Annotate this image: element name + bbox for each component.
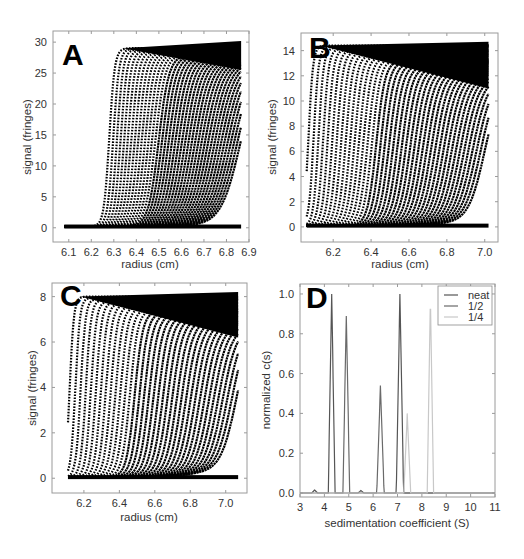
y-tick-label: 6 bbox=[40, 336, 46, 348]
x-tick-label: 6.4 bbox=[129, 246, 144, 258]
legend-label-quarter: 1/4 bbox=[468, 311, 483, 323]
x-tick-label: 6.2 bbox=[84, 246, 99, 258]
x-tick-label: 11 bbox=[489, 501, 500, 513]
panel-d-y-axis-title: normalized c(s) bbox=[260, 351, 272, 430]
baseline-band bbox=[64, 225, 241, 229]
scan-curve bbox=[68, 311, 238, 477]
x-tick-label: 6.6 bbox=[174, 246, 189, 258]
y-tick-label: 0.2 bbox=[279, 447, 294, 459]
figure-canvas: 6.16.26.36.46.56.66.76.86.9051015202530 … bbox=[0, 0, 524, 559]
x-tick-label: 6.8 bbox=[183, 497, 198, 509]
panel-a: 6.16.26.36.46.56.66.76.86.9051015202530 … bbox=[21, 31, 257, 270]
panel-b: 6.26.46.66.87.002468101214 B radius (cm)… bbox=[266, 31, 498, 270]
y-tick-label: 12 bbox=[283, 70, 295, 82]
x-tick-label: 6.5 bbox=[151, 246, 166, 258]
y-tick-label: 10 bbox=[35, 160, 47, 172]
y-tick-label: 0.4 bbox=[279, 407, 294, 419]
y-tick-label: 10 bbox=[283, 95, 295, 107]
y-tick-label: 4 bbox=[40, 381, 46, 393]
x-tick-label: 6.4 bbox=[363, 246, 378, 258]
baseline-band bbox=[307, 224, 489, 228]
y-tick-label: 5 bbox=[41, 191, 47, 203]
y-tick-label: 8 bbox=[40, 291, 46, 303]
x-tick-label: 6.7 bbox=[196, 246, 211, 258]
panel-d: 345678910110.00.20.40.60.81.0 D sediment… bbox=[260, 281, 501, 529]
y-tick-label: 1.0 bbox=[279, 288, 294, 300]
panel-c-label: C bbox=[60, 279, 82, 312]
y-tick-label: 25 bbox=[35, 67, 47, 79]
y-tick-label: 2 bbox=[289, 196, 295, 208]
y-tick-label: 6 bbox=[289, 145, 295, 157]
x-tick-label: 4 bbox=[321, 501, 327, 513]
x-tick-label: 6.1 bbox=[61, 246, 76, 258]
panel-a-scan-curves bbox=[64, 41, 241, 229]
y-tick-label: 0.0 bbox=[279, 487, 294, 499]
panel-a-x-axis-title: radius (cm) bbox=[121, 258, 179, 270]
panel-b-x-axis-title: radius (cm) bbox=[371, 258, 429, 270]
x-tick-label: 6.9 bbox=[241, 246, 256, 258]
y-tick-label: 15 bbox=[35, 129, 47, 141]
x-tick-label: 6.2 bbox=[326, 246, 341, 258]
x-tick-label: 7 bbox=[394, 501, 400, 513]
y-tick-label: 0.6 bbox=[279, 368, 294, 380]
x-tick-label: 9 bbox=[443, 501, 449, 513]
y-tick-label: 0 bbox=[41, 222, 47, 234]
y-tick-label: 8 bbox=[289, 120, 295, 132]
panel-c-y-axis-title: signal (fringes) bbox=[26, 350, 38, 426]
y-tick-label: 0.8 bbox=[279, 328, 294, 340]
y-tick-label: 20 bbox=[35, 98, 47, 110]
x-tick-label: 7.0 bbox=[218, 497, 233, 509]
panel-c-scan-curves bbox=[68, 292, 238, 479]
panel-c-x-axis-title: radius (cm) bbox=[120, 511, 178, 523]
panel-d-label: D bbox=[306, 281, 328, 314]
x-tick-label: 3 bbox=[297, 501, 303, 513]
y-tick-label: 30 bbox=[35, 36, 47, 48]
x-tick-label: 6.6 bbox=[147, 497, 162, 509]
y-tick-label: 2 bbox=[40, 427, 46, 439]
panel-b-y-axis-title: signal (fringes) bbox=[266, 99, 278, 175]
x-tick-label: 6 bbox=[370, 501, 376, 513]
x-tick-label: 5 bbox=[346, 501, 352, 513]
x-tick-label: 6.6 bbox=[401, 246, 416, 258]
y-tick-label: 0 bbox=[289, 221, 295, 233]
y-tick-label: 0 bbox=[40, 472, 46, 484]
x-tick-label: 8 bbox=[419, 501, 425, 513]
panel-d-x-axis-title: sedimentation coefficient (S) bbox=[325, 517, 470, 529]
panel-d-y-axis-title-text: normalized c(s) bbox=[260, 351, 272, 430]
panel-a-y-axis-title: signal (fringes) bbox=[21, 99, 33, 175]
x-tick-label: 7.0 bbox=[477, 246, 492, 258]
panel-a-label: A bbox=[62, 38, 84, 71]
x-tick-label: 6.2 bbox=[76, 497, 91, 509]
baseline-band bbox=[68, 475, 238, 479]
panel-b-scan-curves bbox=[307, 42, 489, 228]
x-tick-label: 10 bbox=[465, 501, 477, 513]
x-tick-label: 6.3 bbox=[106, 246, 121, 258]
panel-c: 6.26.46.66.87.002468 C radius (cm) signa… bbox=[26, 279, 247, 523]
y-tick-label: 4 bbox=[289, 171, 295, 183]
y-tick-label: 14 bbox=[283, 45, 295, 57]
x-tick-label: 6.8 bbox=[439, 246, 454, 258]
x-tick-label: 6.4 bbox=[112, 497, 127, 509]
panel-b-label: B bbox=[309, 31, 331, 64]
panel-d-legend: neat 1/2 1/4 bbox=[438, 286, 492, 325]
x-tick-label: 6.8 bbox=[219, 246, 234, 258]
